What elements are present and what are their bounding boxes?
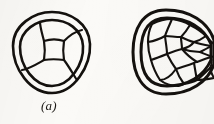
figure-plate: (a) <box>0 0 214 124</box>
panel-a-caption: (a) <box>41 99 57 112</box>
cell-tessellation-fine-icon <box>104 0 214 124</box>
figure-panel-b: (b) <box>104 0 214 124</box>
figure-panel-a: (a) <box>0 0 110 124</box>
